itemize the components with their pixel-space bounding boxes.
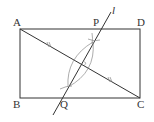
diagonal-ac [20,29,140,98]
arc-tick-bottom [60,86,72,89]
label-b: B [13,98,20,110]
label-p: P [93,16,99,28]
arc-tick-top [88,39,100,41]
arc-tick-top-2 [92,33,93,44]
label-d: D [137,16,145,28]
diagram-canvas: A P D B Q C l [0,0,154,122]
construction-arc-left [68,42,93,87]
label-l: l [112,4,115,16]
label-c: C [137,98,144,110]
label-a: A [13,16,21,28]
geometry-figure: A P D B Q C l [0,0,154,122]
label-q: Q [60,98,68,110]
